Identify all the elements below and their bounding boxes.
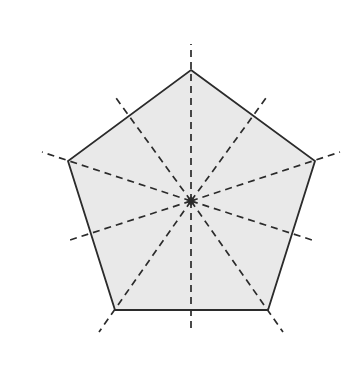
pentagon-symmetry-figure bbox=[0, 0, 354, 372]
figure-canvas bbox=[0, 0, 354, 372]
